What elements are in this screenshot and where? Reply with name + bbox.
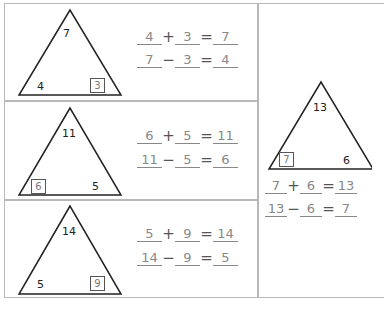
addition-equation: 7 + 6 = 13	[265, 177, 357, 194]
addition-equation: 6 + 5 = 11	[137, 127, 238, 144]
addend-a-field[interactable]: 5	[137, 226, 162, 242]
equals-sign: =	[200, 53, 213, 68]
minus-sign: −	[162, 153, 175, 168]
subtrahend-field[interactable]: 5	[175, 152, 200, 168]
subtraction-equation: 14 − 9 = 5	[137, 249, 238, 266]
minus-sign: −	[162, 53, 175, 68]
triangle-icon	[14, 203, 124, 297]
triangle-right-number: 5	[92, 181, 99, 192]
subtraction-equation: 13 − 6 = 7	[265, 200, 357, 217]
sum-field[interactable]: 13	[335, 178, 357, 194]
equals-sign: =	[322, 202, 335, 217]
subtrahend-field[interactable]: 3	[175, 52, 200, 68]
minuend-field[interactable]: 14	[137, 250, 162, 266]
sum-field[interactable]: 11	[213, 128, 238, 144]
minuend-field[interactable]: 7	[137, 52, 162, 68]
addend-b-field[interactable]: 3	[175, 29, 200, 45]
minuend-field[interactable]: 11	[137, 152, 162, 168]
problem-4: 13 7 6 7 + 6 = 13 13 − 6 = 7	[259, 3, 381, 298]
sum-field[interactable]: 14	[213, 226, 238, 242]
subtraction-equation: 11 − 5 = 6	[137, 151, 238, 168]
minus-sign: −	[287, 202, 300, 217]
plus-sign: +	[162, 129, 175, 144]
triangle-left-number: 4	[37, 81, 44, 92]
triangle-left-boxed-number: 6	[31, 179, 46, 194]
addend-b-field[interactable]: 6	[300, 178, 322, 194]
triangle-left-boxed-number: 7	[279, 152, 294, 167]
equals-sign: =	[322, 179, 335, 194]
triangle-right-number: 6	[343, 155, 350, 166]
difference-field[interactable]: 6	[213, 152, 238, 168]
addend-a-field[interactable]: 7	[265, 178, 287, 194]
subtraction-equation: 7 − 3 = 4	[137, 51, 238, 68]
addend-a-field[interactable]: 6	[137, 128, 162, 144]
triangle-top-number: 13	[313, 102, 327, 113]
triangle-top-number: 11	[62, 128, 76, 139]
plus-sign: +	[162, 227, 175, 242]
equals-sign: =	[200, 153, 213, 168]
equals-sign: =	[200, 251, 213, 266]
minuend-field[interactable]: 13	[265, 201, 287, 217]
difference-field[interactable]: 7	[335, 201, 357, 217]
problem-3: 14 5 9 5 + 9 = 14 14 − 9 = 5	[4, 200, 258, 298]
addend-b-field[interactable]: 9	[175, 226, 200, 242]
sum-field[interactable]: 7	[213, 29, 238, 45]
plus-sign: +	[162, 30, 175, 45]
difference-field[interactable]: 5	[213, 250, 238, 266]
triangle-left-number: 5	[37, 279, 44, 290]
problem-1: 7 4 3 4 + 3 = 7 7 − 3 = 4	[4, 3, 258, 100]
triangle-right-boxed-number: 3	[90, 78, 105, 93]
subtrahend-field[interactable]: 6	[300, 201, 322, 217]
triangle-top-number: 7	[63, 28, 70, 39]
triangle-icon	[14, 7, 124, 97]
minus-sign: −	[162, 251, 175, 266]
plus-sign: +	[287, 179, 300, 194]
problem-2: 11 6 5 6 + 5 = 11 11 − 5 = 6	[4, 101, 258, 199]
equals-sign: =	[200, 129, 213, 144]
triangle-right-boxed-number: 9	[90, 276, 105, 291]
addend-a-field[interactable]: 4	[137, 29, 162, 45]
triangle-top-number: 14	[62, 226, 76, 237]
addition-equation: 4 + 3 = 7	[137, 28, 238, 45]
equals-sign: =	[200, 30, 213, 45]
equals-sign: =	[200, 227, 213, 242]
addition-equation: 5 + 9 = 14	[137, 225, 238, 242]
difference-field[interactable]: 4	[213, 52, 238, 68]
addend-b-field[interactable]: 5	[175, 128, 200, 144]
subtrahend-field[interactable]: 9	[175, 250, 200, 266]
